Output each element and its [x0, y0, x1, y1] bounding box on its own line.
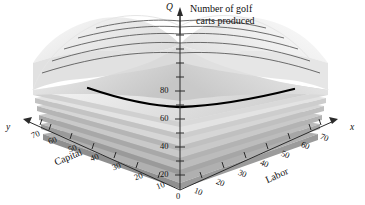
x-axis-variable-label: x [350, 123, 354, 133]
q-axis-variable-label: Q [166, 3, 173, 13]
origin-label: 0 [176, 192, 180, 201]
golf-cart-production-surface-figure: Q Number of golf carts produced 80 60 40… [0, 0, 365, 205]
q-axis-tick-label-80: 80 [160, 86, 169, 95]
q-axis-tick-label-40: 40 [160, 142, 169, 151]
q-axis-tick-label-60: 60 [160, 114, 169, 123]
surface-plot-svg [0, 0, 365, 205]
chart-title-line-1: Number of golf [190, 3, 252, 15]
q-axis-tick-label-20: 20 [160, 170, 169, 179]
chart-title-line-2: carts produced [196, 15, 255, 27]
y-axis-variable-label: y [6, 123, 10, 133]
